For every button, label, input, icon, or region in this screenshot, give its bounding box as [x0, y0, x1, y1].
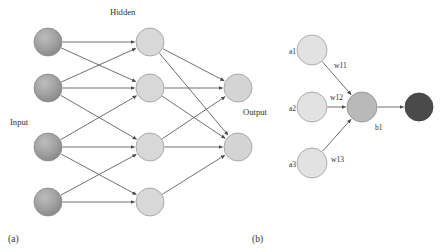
node-i2 — [34, 74, 62, 102]
node-h4 — [136, 188, 164, 216]
connection-h1-o1 — [163, 49, 224, 81]
node-label-b1: b1 — [375, 123, 383, 132]
node-a2 — [297, 92, 327, 122]
node-a3 — [297, 148, 327, 178]
node-b1 — [347, 92, 377, 122]
panel-a-edge-group — [61, 42, 228, 202]
output-layer-label: Output — [243, 107, 267, 117]
panel-label-b: (b) — [252, 234, 263, 245]
node-label-a1: a1 — [289, 47, 296, 56]
node-o2 — [224, 133, 252, 161]
node-h3 — [136, 133, 164, 161]
node-i1 — [34, 28, 62, 56]
node-label-a3: a3 — [289, 160, 296, 169]
connection-h3-o1 — [162, 97, 225, 139]
neural-network-figure: InputHiddenOutput a1a2a3b1w11w12w13 (a) … — [0, 0, 446, 252]
connection-a3-b1 — [322, 119, 351, 151]
node-i3 — [34, 133, 62, 161]
connection-h1-o2 — [159, 53, 228, 135]
connection-i3-h2 — [61, 96, 137, 140]
panel-a-layer-label-group: InputHiddenOutput — [10, 7, 267, 127]
node-i4 — [34, 188, 62, 216]
panel-a-node-group — [34, 28, 252, 216]
connection-h4-o2 — [162, 155, 225, 194]
node-out — [405, 93, 433, 121]
node-o1 — [224, 74, 252, 102]
connection-h2-o2 — [162, 96, 225, 138]
weight-label-w13: w13 — [331, 155, 344, 164]
node-label-a2: a2 — [289, 104, 296, 113]
panel-label-a: (a) — [8, 234, 19, 245]
panel-b-node-group — [297, 35, 433, 178]
figure-root: InputHiddenOutput a1a2a3b1w11w12w13 (a) … — [0, 0, 446, 252]
connection-i2-h3 — [61, 95, 137, 139]
node-a1 — [297, 35, 327, 65]
hidden-layer-label: Hidden — [110, 7, 136, 17]
node-h1 — [136, 28, 164, 56]
weight-label-w11: w11 — [334, 61, 347, 70]
input-layer-label: Input — [10, 117, 29, 127]
weight-label-w12: w12 — [330, 93, 343, 102]
node-h2 — [136, 74, 164, 102]
